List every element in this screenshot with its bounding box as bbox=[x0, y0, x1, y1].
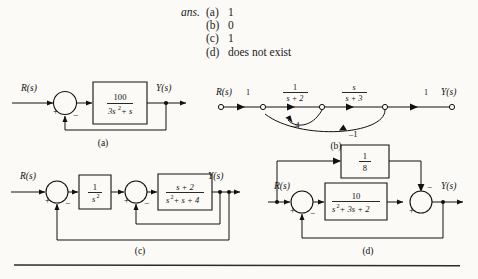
figure-c-output-label: Y(s) bbox=[208, 171, 223, 182]
figure-c-block-2-denominator-tail: + s + 4 bbox=[174, 195, 200, 205]
figure-d-plant-numerator: 10 bbox=[352, 191, 361, 201]
figure-a-summer-sign-positive: + bbox=[53, 106, 58, 116]
figure-b-node-input bbox=[218, 104, 223, 109]
figure-c-block-1-numerator: 1 bbox=[93, 182, 97, 192]
figure-c-summer-2-sign-negative: − bbox=[144, 198, 149, 208]
figure-b-node-2 bbox=[319, 104, 324, 109]
figure-c-block-2-denominator-group: s 2 + s + 4 bbox=[166, 194, 200, 205]
figure-b-node-output bbox=[449, 104, 454, 109]
figure-a-output-label: Y(s) bbox=[156, 83, 171, 94]
figure-c-block-1-denominator-group: s 2 bbox=[92, 193, 100, 204]
figure-a: R(s) Y(s) + − 100 3s 2 + s bbox=[12, 82, 186, 149]
figure-a-summer-sign-negative: − bbox=[73, 110, 78, 120]
figure-c-block-1-denominator-exponent: 2 bbox=[97, 193, 100, 199]
page-bottom-rule bbox=[14, 265, 460, 266]
figure-c-input-label: R(s) bbox=[19, 171, 36, 182]
figure-d-summer-1-sign-negative: − bbox=[310, 208, 315, 218]
figure-b-arrow-1 bbox=[237, 104, 245, 111]
figure-b-output-label: Y(s) bbox=[441, 87, 456, 98]
figure-b-gain-output: 1 bbox=[424, 88, 428, 97]
figure-b-branch2-denominator: s + 3 bbox=[346, 94, 363, 103]
figure-b-caption: (b) bbox=[330, 141, 341, 152]
figure-b-feedback-outer-arrowhead bbox=[339, 125, 347, 131]
figure-d-summer-1-sign-positive: + bbox=[290, 205, 295, 215]
figure-b-node-3 bbox=[382, 104, 387, 109]
figure-b-input-label: R(s) bbox=[215, 87, 232, 98]
figure-d: R(s) Y(s) 1 8 + − 10 bbox=[268, 145, 463, 257]
figure-b-arrow-4 bbox=[410, 104, 418, 111]
figure-c-summer-1-sign-negative: − bbox=[65, 198, 70, 208]
figure-a-input-label: R(s) bbox=[20, 83, 37, 94]
figure-d-summer-2-sign-negative: − bbox=[427, 182, 432, 192]
page-canvas: ans. (a) 1 (b) 0 (c) 1 (d) does not exis… bbox=[0, 0, 478, 279]
figure-c-block-2-numerator: s + 2 bbox=[176, 182, 194, 192]
figure-b-arrow-3 bbox=[346, 104, 354, 111]
figure-a-block-denominator-group: 3s 2 + s bbox=[107, 105, 133, 116]
figure-b-branch2-numerator: s bbox=[352, 83, 355, 92]
figure-a-caption: (a) bbox=[98, 138, 109, 149]
figure-c-caption: (c) bbox=[135, 246, 146, 257]
figure-d-plant-denominator-tail: + 3s + 2 bbox=[340, 204, 371, 214]
figure-a-block-numerator: 100 bbox=[114, 92, 127, 102]
figure-c: R(s) Y(s) + − 1 s 2 + − bbox=[11, 171, 240, 257]
figure-a-block-denominator-tail: + s bbox=[121, 106, 133, 116]
figure-b-node-1 bbox=[260, 104, 265, 109]
figure-c-summer-2-sign-positive: + bbox=[124, 195, 129, 205]
figure-d-summer-2-sign-positive: + bbox=[409, 205, 414, 215]
figure-b-branch1-numerator: 1 bbox=[293, 83, 297, 92]
figure-d-gain-block-denominator: 8 bbox=[363, 163, 367, 173]
figure-d-plant-denominator-group: s 2 + 3s + 2 bbox=[332, 203, 370, 214]
figure-b-feedback-outer-gain: –1 bbox=[348, 129, 358, 139]
figure-d-input-label: R(s) bbox=[273, 181, 290, 192]
figure-a-plant-block bbox=[93, 82, 147, 124]
figure-c-block-1-denominator: s bbox=[92, 194, 96, 204]
figure-a-block-denominator: 3s bbox=[107, 106, 116, 116]
figures-sheet: R(s) Y(s) + − 100 3s 2 + s bbox=[0, 0, 478, 279]
figure-c-summer-1-sign-positive: + bbox=[45, 195, 50, 205]
figure-b-branch1-gain: 1 s + 2 bbox=[283, 83, 308, 103]
figure-d-gain-block-numerator: 1 bbox=[363, 151, 367, 161]
figure-b-branch1-denominator: s + 2 bbox=[287, 94, 304, 103]
figure-d-output-label: Y(s) bbox=[441, 181, 456, 192]
figure-b-feedback-outer-arc bbox=[265, 110, 385, 132]
figure-b-arrow-2 bbox=[287, 104, 295, 111]
figure-d-gain-to-summer2-path bbox=[389, 161, 421, 190]
figure-b-branch2-gain: s s + 3 bbox=[342, 83, 367, 103]
figure-d-plant-denominator: s bbox=[332, 204, 336, 214]
figure-b: R(s) Y(s) 1 1 1 s + 2 s s + 3 bbox=[215, 83, 456, 152]
figure-d-caption: (d) bbox=[362, 246, 373, 257]
figure-c-block-2-denominator: s bbox=[166, 195, 170, 205]
figure-d-feedforward-arrowhead bbox=[333, 158, 341, 165]
figure-b-gain-input: 1 bbox=[246, 88, 250, 97]
